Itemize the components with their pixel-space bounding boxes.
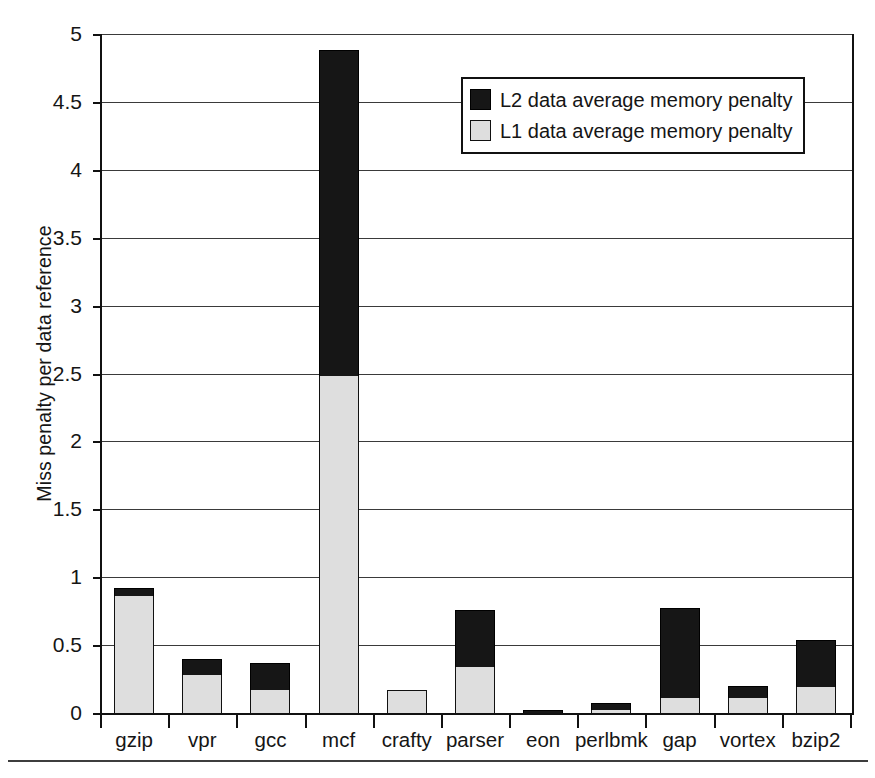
bar-stack [591,703,631,713]
y-axis-tick-label: 4 [20,159,82,180]
x-axis-tick-label: parser [446,729,504,752]
legend-entry-l2: L2 data average memory penalty [470,84,792,115]
y-axis-tick-label: 1 [20,566,82,587]
bar-group [236,34,304,713]
bar-segment-l1 [182,675,222,713]
x-axis-tick-label: bzip2 [791,729,840,752]
bar-segment-l2 [660,608,700,698]
x-axis-tick-mark [509,715,511,728]
bar-group [373,34,441,713]
bar-segment-l2 [728,686,768,698]
x-axis-tick-mark [782,715,784,728]
bar-segment-l1 [387,690,427,713]
legend-entry-l1: L1 data average memory penalty [470,115,792,146]
bar-segment-l2 [182,659,222,675]
bar-segment-l1 [319,376,359,713]
bar-segment-l2 [319,50,359,376]
x-axis-tick-mark [373,715,375,728]
x-axis-tick-label: gcc [255,729,287,752]
bar-segment-l2 [591,703,631,710]
bar-stack [387,690,427,713]
x-axis-tick-label: gap [662,729,696,752]
bar-stack [182,659,222,713]
x-axis-tick-mark [236,715,238,728]
x-axis-tick-label: perlbmk [575,729,648,752]
bar-stack [523,710,563,713]
figure-bottom-rule [8,760,868,762]
y-axis-tick-label: 0 [20,702,82,723]
x-axis-tick-mark [168,715,170,728]
bar-segment-l2 [114,588,154,596]
x-axis-tick-label: vpr [188,729,216,752]
bar-stack [250,663,290,713]
y-axis-tick-label: 5 [20,23,82,44]
bar-segment-l1 [455,667,495,713]
y-axis-tick-label: 2.5 [20,363,82,384]
bar-stack [319,50,359,713]
x-axis-tick-label: gzip [115,729,153,752]
x-axis-labels: gzipvprgccmcfcraftyparsereonperlbmkgapvo… [100,729,850,759]
x-axis-tick-mark [577,715,579,728]
bar-segment-l2 [796,640,836,688]
x-axis-tick-mark [714,715,716,728]
x-axis-tick-mark [305,715,307,728]
bar-group [305,34,373,713]
chart-legend: L2 data average memory penalty L1 data a… [461,77,805,154]
y-axis-tick-label: 3 [20,295,82,316]
bar-stack [796,640,836,713]
x-axis-tick-marks [100,715,850,728]
bar-segment-l1 [796,687,836,713]
x-axis-tick-label: mcf [322,729,355,752]
bar-stack [114,588,154,713]
figure-stacked-bar-chart: Miss penalty per data reference gzipvprg… [0,0,875,778]
bar-segment-l2 [250,663,290,690]
bar-group [168,34,236,713]
legend-entry-label: L1 data average memory penalty [500,121,792,141]
x-axis-tick-mark [100,715,102,728]
bar-segment-l2 [523,710,563,713]
bar-stack [660,608,700,713]
y-axis-tick-label: 2 [20,430,82,451]
bar-segment-l2 [455,610,495,667]
bar-segment-l1 [250,690,290,713]
y-axis-tick-label: 3.5 [20,227,82,248]
bar-segment-l1 [591,710,631,713]
y-axis-tick-label: 4.5 [20,91,82,112]
bar-segment-l1 [660,698,700,713]
bar-segment-l1 [728,698,768,713]
x-axis-tick-label: crafty [382,729,432,752]
bar-group [100,34,168,713]
legend-entry-label: L2 data average memory penalty [500,90,792,110]
y-axis-tick-label: 0.5 [20,634,82,655]
light-gray-swatch-icon [470,120,491,141]
bar-stack [455,610,495,713]
y-axis-tick-label: 1.5 [20,498,82,519]
x-axis-tick-label: vortex [720,729,776,752]
bar-segment-l1 [114,596,154,713]
bar-stack [728,686,768,713]
x-axis-tick-label: eon [526,729,560,752]
black-swatch-icon [470,89,491,110]
x-axis-tick-mark [645,715,647,728]
x-axis-tick-mark [850,715,852,728]
x-axis-tick-mark [441,715,443,728]
